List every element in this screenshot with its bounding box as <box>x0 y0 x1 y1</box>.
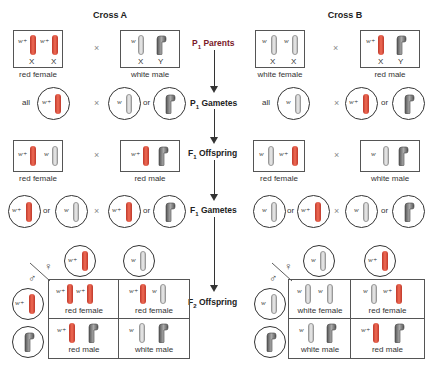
x-chromosome-white-icon <box>363 202 369 222</box>
allele-label: w <box>318 287 323 295</box>
allele-label: w+ <box>349 98 358 106</box>
x-chromosome-red-icon <box>292 146 298 166</box>
y-chromosome-icon <box>265 332 277 352</box>
x-chromosome-white-icon <box>295 94 301 114</box>
allele-label: w <box>371 150 376 158</box>
y-chromosome-icon <box>157 146 169 166</box>
phenotype-label: red female <box>119 306 189 315</box>
x-chromosome-white-icon <box>160 284 166 304</box>
allele-label: w <box>297 287 302 295</box>
chromosome-label: Y <box>158 57 163 66</box>
allele-label: w+ <box>40 37 49 45</box>
gamete-circle <box>392 87 425 120</box>
y-chromosome-icon <box>155 35 167 55</box>
y-chromosome-icon <box>87 323 99 343</box>
phenotype-label: red male <box>49 345 119 354</box>
punnett-cell: w+ w+ red female <box>49 280 119 319</box>
y-chromosome-icon <box>164 202 176 222</box>
x-chromosome-red-icon <box>87 284 93 304</box>
or-label: or <box>381 206 388 215</box>
cross-b-title: Cross B <box>295 10 395 20</box>
allele-label: w+ <box>129 287 138 295</box>
allele-label: w <box>129 326 134 334</box>
all-label: all <box>22 98 30 107</box>
cross-b-f1-male-caption: white male <box>360 174 420 183</box>
gamete-circle: w <box>277 87 310 120</box>
gamete-circle: w+ <box>345 87 378 120</box>
stage-label-f1-offspring: F1 Offspring <box>188 148 237 160</box>
cross-symbol: × <box>334 206 339 216</box>
x-chromosome-white-icon <box>271 294 277 314</box>
x-chromosome-red-icon <box>143 146 149 166</box>
gamete-circle: w+ <box>8 195 41 228</box>
stage-label-p1-gametes: P1 Gametes <box>190 98 237 110</box>
male-gamete-circle: w+ <box>12 288 44 320</box>
allele-label: w+ <box>366 37 375 45</box>
gamete-circle <box>153 87 186 120</box>
x-chromosome-red-icon <box>55 94 61 114</box>
male-symbol-icon: ♂ <box>28 272 36 284</box>
allele-label: w+ <box>56 287 65 295</box>
cross-a-p1-male-caption: white male <box>120 70 180 79</box>
or-label: or <box>381 98 388 107</box>
allele-label: w+ <box>12 206 21 214</box>
allele-label: w+ <box>368 256 377 264</box>
cross-b-p1-female-box: w w X X <box>255 30 305 68</box>
x-chromosome-white-icon <box>268 146 274 166</box>
punnett-cell: w+ red male <box>49 319 119 358</box>
x-chromosome-white-icon <box>383 146 389 166</box>
punnett-cell: w white male <box>289 319 351 358</box>
x-chromosome-white-icon <box>271 35 277 55</box>
x-chromosome-white-icon <box>271 202 277 222</box>
male-gamete-circle: w <box>254 288 286 320</box>
x-chromosome-red-icon <box>67 284 73 304</box>
or-label: or <box>143 206 150 215</box>
or-label: or <box>143 98 150 107</box>
allele-label: w <box>117 98 122 106</box>
cross-symbol: × <box>94 98 99 108</box>
cross-b-p1-male-box: w+ X Y <box>360 30 420 68</box>
allele-label: w <box>299 326 304 334</box>
cross-a-f1-female-caption: red female <box>13 174 63 183</box>
x-chromosome-red-icon <box>378 35 384 55</box>
punnett-cell: w white male <box>119 319 189 358</box>
phenotype-label: white male <box>289 345 351 354</box>
y-chromosome-icon <box>403 202 415 222</box>
cross-b-f1-female-caption: red female <box>253 174 305 183</box>
punnett-cell: w w+ red female <box>351 280 424 319</box>
y-chromosome-icon <box>325 323 337 343</box>
cross-symbol: × <box>94 43 99 53</box>
gamete-circle <box>153 195 186 228</box>
or-label: or <box>43 206 50 215</box>
allele-label: w+ <box>42 98 51 106</box>
male-symbol-icon: ♂ <box>269 272 277 284</box>
phenotype-label: red female <box>49 306 119 315</box>
allele-label: w <box>131 256 136 264</box>
phenotype-label: white female <box>289 306 351 315</box>
allele-label: w <box>64 206 69 214</box>
allele-label: w <box>311 256 316 264</box>
punnett-cell: w+ w red female <box>119 280 189 319</box>
cross-symbol: × <box>94 206 99 216</box>
cross-a-title: Cross A <box>60 10 160 20</box>
x-chromosome-red-icon <box>26 202 32 222</box>
male-gamete-circle <box>12 326 44 358</box>
phenotype-label: red female <box>351 306 424 315</box>
x-chromosome-white-icon <box>138 35 144 55</box>
x-chromosome-white-icon <box>320 251 326 271</box>
cross-a-f1-male-box: w+ <box>120 140 180 172</box>
cross-symbol: × <box>334 98 339 108</box>
allele-label: w <box>363 287 368 295</box>
gamete-circle: w+ <box>297 195 330 228</box>
x-chromosome-white-icon <box>371 284 377 304</box>
allele-label: w <box>284 37 289 45</box>
phenotype-label: red male <box>351 345 424 354</box>
gamete-circle: w <box>345 195 378 228</box>
cross-b-f1-female-box: w w+ <box>253 140 305 172</box>
stage-label-f1-gametes: F1 Gametes <box>190 205 237 217</box>
stage-label-p1-parents: P1 Parents <box>192 38 235 50</box>
female-gamete-circle: w+ <box>64 245 96 277</box>
x-chromosome-red-icon <box>82 251 88 271</box>
x-chromosome-white-icon <box>73 202 79 222</box>
allele-label: w+ <box>18 150 27 158</box>
